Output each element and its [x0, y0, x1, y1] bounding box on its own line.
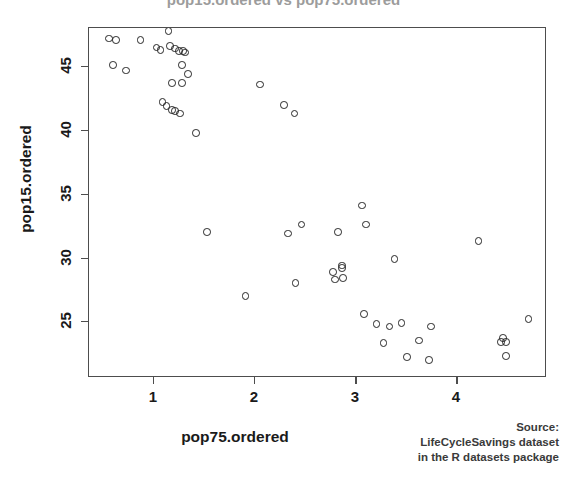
data-point [497, 338, 505, 346]
data-point [203, 228, 211, 236]
data-point [280, 101, 288, 109]
data-point [178, 79, 186, 87]
scatter-plot-figure: pop15.ordered vs pop75.ordered 25 30 35 … [0, 0, 567, 479]
source-caption: Source: LifeCycleSavings dataset in the … [344, 420, 559, 465]
data-point [425, 356, 433, 364]
data-point [339, 274, 347, 282]
y-tick-label-40: 40 [57, 117, 74, 143]
data-point [338, 264, 346, 272]
x-tick-label-2: 2 [239, 388, 269, 405]
x-tick-label-4: 4 [441, 388, 471, 405]
clipped-chart-title-text: pop15.ordered vs pop75.ordered [0, 0, 567, 8]
data-point [178, 61, 186, 69]
data-point [360, 310, 368, 318]
data-point [502, 352, 510, 360]
data-point [165, 28, 173, 35]
x-tick-label-3: 3 [340, 388, 370, 405]
data-point [256, 81, 264, 89]
y-tick-label-35: 35 [57, 181, 74, 207]
x-tick-mark-2 [254, 377, 256, 384]
data-point [157, 46, 165, 54]
data-point [373, 320, 381, 328]
data-point [109, 61, 117, 69]
x-tick-mark-4 [456, 377, 458, 384]
plot-panel [88, 27, 546, 377]
source-caption-line-3: in the R datasets package [344, 450, 559, 465]
y-tick-label-25: 25 [57, 308, 74, 334]
data-point [192, 129, 200, 137]
y-tick-mark-35 [81, 194, 88, 196]
x-tick-label-1: 1 [138, 388, 168, 405]
data-point [415, 337, 423, 345]
data-point [334, 228, 342, 236]
data-point [475, 237, 483, 245]
clipped-chart-title: pop15.ordered vs pop75.ordered [0, 0, 567, 12]
data-point [181, 49, 189, 57]
data-point [122, 67, 130, 75]
source-caption-line-1: Source: [344, 420, 559, 435]
data-point [242, 292, 250, 300]
y-axis-label: pop15.ordered [17, 124, 35, 234]
y-tick-mark-25 [81, 321, 88, 323]
data-point [184, 70, 192, 78]
y-tick-mark-40 [81, 130, 88, 132]
data-point [298, 221, 306, 229]
data-point [427, 323, 435, 331]
source-caption-line-2: LifeCycleSavings dataset [344, 435, 559, 450]
data-point [329, 268, 337, 276]
y-tick-mark-45 [81, 66, 88, 68]
data-point [137, 36, 145, 44]
data-point [292, 279, 300, 287]
data-point [362, 221, 370, 229]
data-point [403, 353, 411, 361]
data-point [331, 276, 339, 284]
data-point [284, 230, 292, 238]
data-point [525, 315, 533, 323]
data-point [171, 45, 179, 53]
data-point [291, 110, 299, 118]
data-point [168, 79, 176, 87]
data-point [386, 323, 394, 331]
data-point [380, 339, 388, 347]
data-point [176, 110, 184, 118]
y-tick-label-30: 30 [57, 245, 74, 271]
data-point [358, 202, 366, 210]
data-point [391, 255, 399, 263]
data-points-layer [89, 28, 545, 376]
y-tick-label-45: 45 [57, 53, 74, 79]
x-tick-mark-3 [355, 377, 357, 384]
data-point [398, 319, 406, 327]
x-tick-mark-1 [153, 377, 155, 384]
data-point [112, 36, 120, 44]
y-tick-mark-30 [81, 258, 88, 260]
